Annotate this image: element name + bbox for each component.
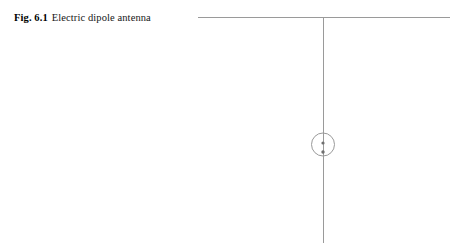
source-center-dot [321, 141, 324, 144]
electric-dipole-antenna-diagram [0, 0, 457, 245]
figure-page: Fig. 6.1Electric dipole antenna [0, 0, 457, 245]
source-lower-dot [321, 150, 324, 153]
